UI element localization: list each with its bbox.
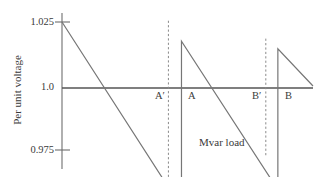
- annotation-a-prime: A′: [155, 91, 165, 102]
- y-tick-label-1000: 1.0: [8, 82, 54, 93]
- annotation-mvar-load: Mvar load: [199, 137, 245, 148]
- annotation-a: A: [188, 91, 196, 102]
- annotation-b: B: [285, 91, 292, 102]
- annotation-b-prime: B′: [252, 91, 261, 102]
- y-tick-label-0975: 0.975: [8, 145, 54, 156]
- chart-figure: Per unit voltage 1.025 1.0 0.975 A′ A B′…: [0, 0, 323, 177]
- y-tick-label-1025: 1.025: [8, 17, 54, 28]
